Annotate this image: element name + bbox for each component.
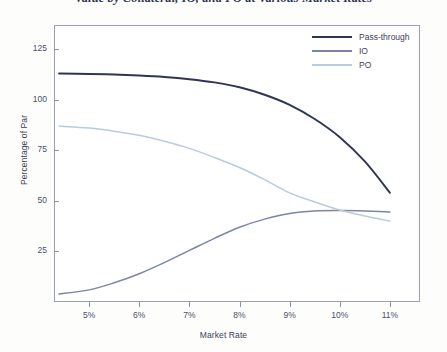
legend-label: Pass-through — [359, 32, 410, 42]
legend-color-swatch — [312, 36, 352, 38]
x-tick-mark — [89, 302, 90, 307]
x-tick-label: 5% — [72, 310, 106, 320]
x-tick-label: 7% — [172, 310, 206, 320]
chart-legend: Pass-throughIOPO — [312, 30, 416, 72]
legend-label: PO — [359, 60, 371, 70]
y-tick-mark — [54, 49, 59, 50]
x-tick-label: 8% — [223, 310, 257, 320]
x-tick-mark — [390, 302, 391, 307]
series-line — [59, 74, 390, 193]
series-line — [59, 211, 390, 294]
x-tick-mark — [340, 302, 341, 307]
x-axis-label: Market Rate — [0, 330, 447, 340]
legend-label: IO — [359, 46, 368, 56]
x-tick-mark — [139, 302, 140, 307]
legend-color-swatch — [312, 50, 352, 52]
y-tick-label: 125 — [13, 43, 47, 53]
x-tick-label: 9% — [273, 310, 307, 320]
x-tick-mark — [189, 302, 190, 307]
x-tick-label: 11% — [373, 310, 407, 320]
legend-color-swatch — [312, 64, 352, 66]
y-tick-mark — [54, 100, 59, 101]
y-tick-mark — [54, 201, 59, 202]
legend-item: IO — [312, 44, 416, 57]
y-tick-label: 25 — [13, 245, 47, 255]
x-tick-mark — [240, 302, 241, 307]
y-axis-label: Percentage of Par — [19, 85, 29, 215]
x-tick-label: 6% — [122, 310, 156, 320]
x-tick-label: 10% — [323, 310, 357, 320]
series-line — [59, 126, 390, 221]
legend-item: PO — [312, 58, 416, 71]
x-tick-mark — [290, 302, 291, 307]
legend-item: Pass-through — [312, 30, 416, 43]
y-tick-mark — [54, 150, 59, 151]
page-title: Value by Collateral, IO, and PO at Vario… — [0, 0, 447, 6]
y-tick-mark — [54, 251, 59, 252]
